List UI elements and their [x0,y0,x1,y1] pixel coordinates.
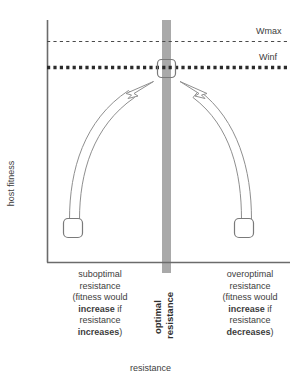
arrow-from-suboptimal [70,91,135,220]
caption-suboptimal: suboptimal resistance (fitness would inc… [50,269,150,339]
caption-left-bold1: increase [78,304,115,314]
caption-right-line6: ) [271,327,274,337]
arrowhead-from-overoptimal [180,82,207,99]
caption-right-line3: (fitness would [222,292,277,302]
caption-left-line4: if [115,304,122,314]
caption-overoptimal: overoptimal resistance (fitness would in… [200,269,300,339]
caption-right-line1: overoptimal [227,269,274,279]
y-axis-label: host fitness [6,154,17,214]
caption-left-bold2: increases [78,327,120,337]
optimal-resistance-band [162,20,171,273]
optimal-band-label-line1: optimal [152,300,163,334]
caption-right-bold2: decreases [226,327,270,337]
marker-suboptimal-state [64,219,83,238]
marker-overoptimal-state [235,219,254,238]
optimal-band-label-line2: resistance [164,292,175,339]
caption-left-line1: suboptimal [78,269,122,279]
arrowhead-from-suboptimal [126,82,154,99]
caption-right-line4: if [265,304,272,314]
x-axis-label: resistance [0,363,301,374]
caption-right-line2: resistance [229,281,270,291]
caption-right-line5: resistance [229,315,270,325]
caption-left-line6: ) [119,327,122,337]
winf-label: Winf [259,52,277,63]
caption-left-line2: resistance [79,281,120,291]
caption-right-bold1: increase [228,304,265,314]
fitness-resistance-diagram: Wmax Winf host fitness resistance optima… [0,0,301,390]
caption-left-line3: (fitness would [72,292,127,302]
caption-left-line5: resistance [79,315,120,325]
wmax-label: Wmax [256,26,282,37]
arrow-from-overoptimal [193,91,252,220]
